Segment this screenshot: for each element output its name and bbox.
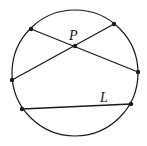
point-c	[136, 70, 140, 74]
chord-through-p-a-c	[31, 29, 138, 72]
point-e	[20, 107, 24, 111]
point-d	[10, 78, 14, 82]
point-p	[73, 44, 77, 48]
label-p: P	[68, 28, 78, 43]
point-f	[129, 102, 133, 106]
chord-l	[22, 104, 131, 109]
label-l: L	[99, 90, 108, 105]
circle-chords-diagram: P L	[0, 0, 147, 146]
point-b	[112, 22, 116, 26]
point-a	[29, 27, 33, 31]
